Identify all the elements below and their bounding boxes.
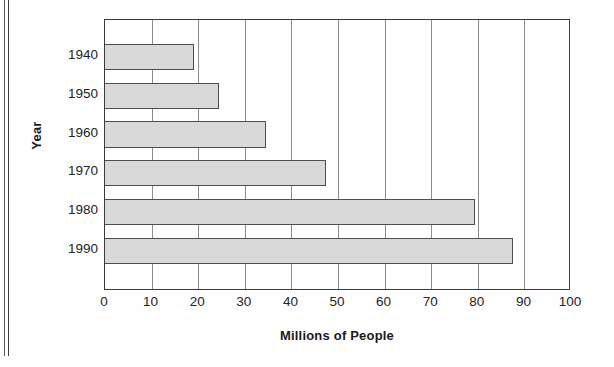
- y-axis-tick-labels: 194019501960197019801990: [36, 19, 98, 290]
- bar-row: [105, 199, 569, 225]
- x-axis-title: Millions of People: [104, 328, 570, 343]
- bar-1970: [105, 160, 326, 186]
- gridline-100: [571, 20, 572, 289]
- x-tick-label-30: 30: [236, 294, 251, 309]
- bar-row: [105, 44, 569, 70]
- x-tick-label-40: 40: [283, 294, 298, 309]
- x-tick-label-90: 90: [516, 294, 531, 309]
- bar-chart-figure: Year 194019501960197019801990 0102030405…: [0, 0, 614, 367]
- x-tick-label-20: 20: [190, 294, 205, 309]
- y-tick-label-1980: 1980: [38, 202, 98, 217]
- x-tick-label-100: 100: [559, 294, 582, 309]
- scanned-page: Year 194019501960197019801990 0102030405…: [0, 0, 614, 367]
- bar-series: [105, 20, 569, 289]
- bar-row: [105, 83, 569, 109]
- x-tick-label-80: 80: [469, 294, 484, 309]
- bar-1980: [105, 199, 475, 225]
- y-tick-label-1990: 1990: [38, 241, 98, 256]
- x-tick-label-60: 60: [376, 294, 391, 309]
- x-tick-label-0: 0: [100, 294, 108, 309]
- bar-row: [105, 238, 569, 264]
- bar-1940: [105, 44, 194, 70]
- y-tick-label-1970: 1970: [38, 163, 98, 178]
- y-tick-label-1940: 1940: [38, 47, 98, 62]
- x-tick-label-70: 70: [423, 294, 438, 309]
- plot-area: [104, 19, 570, 290]
- x-tick-label-50: 50: [329, 294, 344, 309]
- y-tick-label-1950: 1950: [38, 86, 98, 101]
- x-tick-label-10: 10: [143, 294, 158, 309]
- bar-1960: [105, 121, 266, 147]
- bar-1990: [105, 238, 513, 264]
- bar-row: [105, 121, 569, 147]
- bar-row: [105, 160, 569, 186]
- bar-1950: [105, 83, 219, 109]
- x-axis-tick-labels: 0102030405060708090100: [104, 294, 570, 316]
- y-tick-label-1960: 1960: [38, 125, 98, 140]
